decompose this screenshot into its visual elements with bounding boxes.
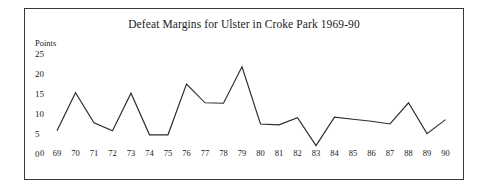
y-tick-15: 15 [35,90,44,99]
x-tick-81: 81 [275,149,284,158]
data-series-line [57,67,446,146]
x-tick-90: 90 [441,149,450,158]
x-axis-origin-label: 0 [40,149,44,158]
x-tick-72: 72 [108,149,117,158]
x-tick-86: 86 [367,149,376,158]
x-tick-80: 80 [256,149,265,158]
x-tick-74: 74 [145,149,154,158]
chart-title: Defeat Margins for Ulster in Croke Park … [25,18,463,30]
x-tick-82: 82 [293,149,302,158]
x-tick-75: 75 [164,149,173,158]
x-tick-69: 69 [53,149,62,158]
x-tick-88: 88 [404,149,413,158]
x-tick-73: 73 [127,149,136,158]
y-tick-0: 0 [35,150,40,159]
x-tick-83: 83 [312,149,321,158]
x-tick-85: 85 [349,149,358,158]
x-tick-78: 78 [219,149,228,158]
chart-figure: Defeat Margins for Ulster in Croke Park … [24,8,464,180]
x-tick-87: 87 [386,149,395,158]
y-tick-20: 20 [35,70,44,79]
x-tick-79: 79 [238,149,247,158]
x-tick-89: 89 [423,149,432,158]
x-tick-71: 71 [90,149,99,158]
y-tick-25: 25 [35,50,44,59]
y-tick-5: 5 [35,130,40,139]
x-tick-70: 70 [71,149,80,158]
y-tick-10: 10 [35,110,44,119]
x-tick-84: 84 [330,149,339,158]
x-tick-76: 76 [182,149,191,158]
x-tick-77: 77 [201,149,210,158]
y-axis-label: Points [35,38,56,48]
